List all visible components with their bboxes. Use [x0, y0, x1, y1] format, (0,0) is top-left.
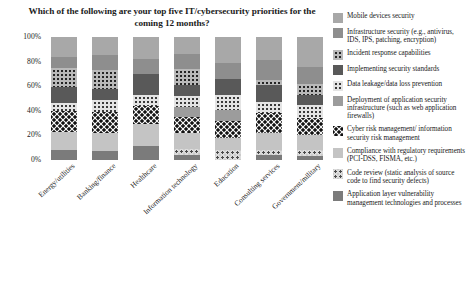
bar-segment[interactable] [51, 150, 77, 160]
bar-slot [289, 37, 330, 160]
legend-item[interactable]: Data leakage/data loss prevention [333, 80, 466, 91]
bar-segment[interactable] [215, 150, 241, 160]
x-axis-label: Healthcare [129, 162, 158, 190]
bar-slot [167, 37, 208, 160]
bar-segment[interactable] [51, 68, 77, 88]
bar-segment[interactable] [174, 133, 200, 149]
bar-segment[interactable] [174, 96, 200, 107]
legend-item[interactable]: Mobile devices security [333, 12, 466, 23]
stacked-bar[interactable] [51, 37, 77, 160]
bar-segment[interactable] [215, 79, 241, 95]
bar-segment[interactable] [174, 155, 200, 160]
bar-segment[interactable] [297, 135, 323, 150]
chart-legend: Mobile devices securityInfrastructure se… [333, 12, 466, 212]
bar-slot [44, 37, 85, 160]
chart-container: Which of the following are your top five… [0, 0, 468, 294]
stacked-bar[interactable] [256, 37, 282, 160]
bar-segment[interactable] [92, 100, 118, 112]
bar-segment[interactable] [174, 107, 200, 117]
bar-segment[interactable] [51, 132, 77, 150]
bar-segment[interactable] [133, 59, 159, 74]
bar-slot [248, 37, 289, 160]
legend-label: Implementing security standards [347, 65, 439, 73]
bar-segment[interactable] [92, 133, 118, 151]
legend-swatch-icon [333, 96, 343, 106]
legend-item[interactable]: Application layer vulnerability manageme… [333, 190, 466, 207]
legend-label: Application layer vulnerability manageme… [347, 190, 466, 207]
bar-segment[interactable] [174, 37, 200, 54]
bar-segment[interactable] [215, 138, 241, 150]
bar-segment[interactable] [92, 37, 118, 55]
plot-area [44, 37, 330, 160]
legend-item[interactable]: Compliance with regulatory requirements … [333, 147, 466, 164]
bar-segment[interactable] [215, 110, 241, 121]
bar-segment[interactable] [133, 106, 159, 124]
bar-segment[interactable] [174, 69, 200, 85]
bar-segment[interactable] [256, 102, 282, 113]
bar-segment[interactable] [215, 121, 241, 138]
y-axis-tick: 40% [27, 107, 41, 115]
bar-segment[interactable] [297, 156, 323, 160]
bar-segment[interactable] [256, 60, 282, 80]
bar-segment[interactable] [256, 37, 282, 60]
legend-item[interactable]: Incident response capabilities [333, 49, 466, 60]
bar-segment[interactable] [215, 37, 241, 63]
bar-segment[interactable] [174, 117, 200, 133]
legend-swatch-icon [333, 28, 343, 38]
bar-segment[interactable] [297, 67, 323, 84]
legend-label: Incident response capabilities [347, 49, 431, 57]
bar-segment[interactable] [133, 95, 159, 106]
bar-segment[interactable] [92, 55, 118, 70]
bar-segment[interactable] [51, 57, 77, 68]
bar-segment[interactable] [133, 74, 159, 95]
legend-item[interactable]: Deployment of application security infra… [333, 96, 466, 121]
bar-segment[interactable] [297, 84, 323, 95]
bar-segment[interactable] [215, 95, 241, 110]
bar-segment[interactable] [297, 95, 323, 105]
bar-segment[interactable] [92, 151, 118, 160]
bar-segment[interactable] [174, 54, 200, 69]
bar-segment[interactable] [92, 112, 118, 133]
legend-item[interactable]: Code review (static analysis of source c… [333, 169, 466, 186]
x-axis-label: Energy/utilities [38, 162, 77, 199]
bar-segment[interactable] [297, 105, 323, 119]
bar-segment[interactable] [92, 70, 118, 88]
bar-segment[interactable] [51, 103, 77, 110]
legend-item[interactable]: Cyber risk management/ information secur… [333, 125, 466, 142]
legend-label: Mobile devices security [347, 12, 415, 20]
bar-segment[interactable] [215, 63, 241, 79]
legend-label: Data leakage/data loss prevention [347, 80, 442, 88]
x-axis-label: Education [213, 162, 241, 189]
bar-segment[interactable] [133, 37, 159, 59]
stacked-bar[interactable] [297, 37, 323, 160]
bar-segment[interactable] [174, 85, 200, 96]
y-axis-tick: 100% [23, 33, 41, 41]
bar-segment[interactable] [256, 155, 282, 160]
stacked-bar[interactable] [215, 37, 241, 160]
bar-segment[interactable] [256, 85, 282, 102]
legend-swatch-icon [333, 126, 343, 136]
legend-swatch-icon [333, 148, 343, 158]
stacked-bar[interactable] [133, 37, 159, 160]
bar-segment[interactable] [51, 87, 77, 103]
bar-segment[interactable] [297, 118, 323, 135]
bar-slot [207, 37, 248, 160]
legend-label: Deployment of application security infra… [347, 96, 466, 121]
bar-segment[interactable] [297, 37, 323, 67]
stacked-bar[interactable] [92, 37, 118, 160]
bar-segment[interactable] [133, 124, 159, 146]
legend-item[interactable]: Infrastructure security (e.g., antivirus… [333, 28, 466, 45]
bar-slot [126, 37, 167, 160]
legend-swatch-icon [333, 50, 343, 60]
bar-segment[interactable] [256, 133, 282, 150]
bar-segment[interactable] [51, 37, 77, 57]
y-axis-tick: 60% [27, 82, 41, 90]
bar-segment[interactable] [51, 111, 77, 132]
bar-segment[interactable] [256, 113, 282, 133]
legend-item[interactable]: Implementing security standards [333, 65, 466, 76]
bar-segment[interactable] [133, 146, 159, 160]
bar-segment[interactable] [92, 89, 118, 100]
stacked-bar[interactable] [174, 37, 200, 160]
legend-swatch-icon [333, 13, 343, 23]
legend-label: Compliance with regulatory requirements … [347, 147, 466, 164]
